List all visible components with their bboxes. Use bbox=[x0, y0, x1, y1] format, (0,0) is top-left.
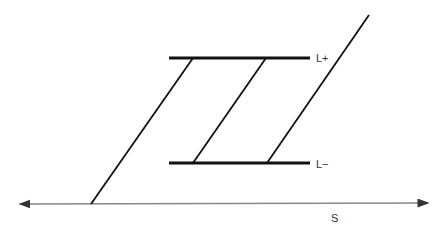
upper-level-label: L+ bbox=[316, 52, 329, 64]
diagram-canvas: L+ L− S bbox=[0, 0, 442, 235]
axis-label-s: S bbox=[331, 212, 338, 224]
left-diagonal-line bbox=[91, 58, 193, 204]
middle-diagonal-line bbox=[193, 58, 266, 163]
s-axis bbox=[20, 203, 428, 204]
right-diagonal-line bbox=[267, 15, 369, 163]
lower-level-label: L− bbox=[316, 158, 329, 170]
